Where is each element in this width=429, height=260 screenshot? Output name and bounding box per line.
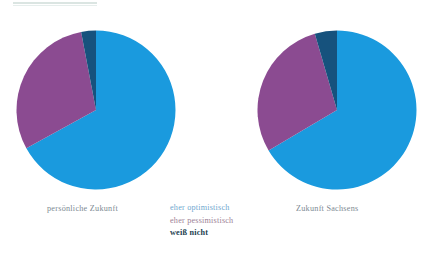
pie-chart-saxony-future — [257, 30, 417, 190]
legend-item-unknown: weiß nicht — [170, 227, 280, 240]
legend-item-pessimistic: eher pessimistisch — [170, 215, 280, 228]
top-rule-icon — [13, 2, 97, 4]
pie-left-svg — [16, 30, 176, 190]
legend-item-optimistic: eher optimistisch — [170, 202, 280, 215]
caption-saxony-future: Zukunft Sachsens — [296, 204, 358, 213]
pie-chart-personal-future — [16, 30, 176, 190]
pie-right-svg — [257, 30, 417, 190]
caption-personal-future: persönliche Zukunft — [47, 204, 118, 213]
top-rule-secondary-icon — [13, 5, 97, 6]
pie-chart-figure: persönliche Zukunft Zukunft Sachsens ehe… — [0, 0, 429, 260]
chart-legend: eher optimistisch eher pessimistisch wei… — [170, 202, 280, 240]
